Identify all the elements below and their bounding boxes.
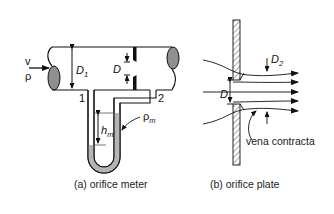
orifice-plate bbox=[133, 47, 137, 90]
caption-a: (a) orifice meter bbox=[74, 178, 148, 190]
orifice-d-dimension bbox=[124, 53, 130, 84]
d1-label: D1 bbox=[76, 64, 88, 79]
orifice-d-label: D bbox=[113, 63, 121, 75]
rho-m-leader bbox=[122, 117, 140, 130]
plate-lower bbox=[233, 104, 240, 165]
hm-label: hm bbox=[101, 124, 113, 139]
orifice-meter-panel: v ρ D1 D 1 2 hm bbox=[25, 47, 179, 190]
orifice-d-label-b: D bbox=[220, 88, 228, 100]
caption-b: (b) orifice plate bbox=[210, 178, 280, 190]
orifice-plate-panel: D D2 vena contracta (b) orifice plate bbox=[203, 20, 315, 190]
velocity-label: v bbox=[25, 55, 31, 67]
density-label: ρ bbox=[25, 70, 31, 82]
tap-2-label: 2 bbox=[158, 92, 164, 104]
tap-1-label: 1 bbox=[79, 92, 85, 104]
streamlines bbox=[203, 60, 298, 124]
rho-m-label: ρm bbox=[143, 110, 156, 125]
vena-contracta-label: vena contracta bbox=[246, 135, 315, 147]
orifice-diagram: v ρ D1 D 1 2 hm bbox=[0, 0, 334, 214]
d2-label: D2 bbox=[271, 53, 284, 68]
